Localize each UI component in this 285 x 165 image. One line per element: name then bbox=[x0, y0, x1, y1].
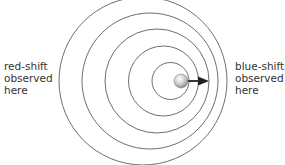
red-shift-line2: observed bbox=[4, 72, 53, 84]
red-shift-line1: red-shift bbox=[4, 60, 53, 72]
red-shift-label: red-shift observed here bbox=[4, 60, 53, 96]
sphere-icon bbox=[174, 74, 188, 88]
blue-shift-line2: observed bbox=[235, 72, 284, 84]
blue-shift-line1: blue-shift bbox=[235, 60, 284, 72]
red-shift-line3: here bbox=[4, 84, 53, 96]
blue-shift-label: blue-shift observed here bbox=[235, 60, 284, 96]
blue-shift-line3: here bbox=[235, 84, 284, 96]
arrow-right-icon bbox=[186, 77, 209, 86]
